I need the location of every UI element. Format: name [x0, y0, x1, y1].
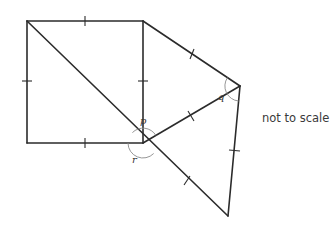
diagonal-line — [27, 21, 228, 216]
tick-mark — [229, 150, 240, 151]
not-to-scale-note: not to scale — [262, 111, 329, 125]
tick-mark — [184, 176, 190, 185]
edge-top-right-to-right-vertex — [143, 21, 240, 86]
angle-label-q: q — [218, 91, 224, 102]
angle-label-p: p — [140, 115, 147, 126]
angle-label-r: r — [132, 154, 138, 165]
edge-center-to-right-vertex — [143, 86, 240, 143]
